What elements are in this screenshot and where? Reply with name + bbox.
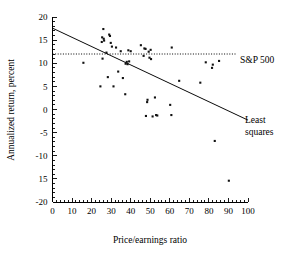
scatter-point (117, 71, 119, 73)
scatter-point (102, 58, 104, 60)
y-tick-label: 0 (43, 105, 48, 115)
scatter-point (178, 80, 180, 82)
scatter-plot-figure: 20151050-5-1015-20 010203040506070809010… (0, 0, 290, 254)
x-axis-ticks (53, 198, 249, 202)
y-tick-label: 15 (39, 174, 49, 184)
axes (53, 17, 249, 203)
least-squares-annotation-line1: Least (245, 115, 266, 125)
price-earnings-vs-return-chart: 20151050-5-1015-20 010203040506070809010… (0, 0, 290, 254)
scatter-point (124, 93, 126, 95)
scatter-point (145, 115, 147, 117)
scatter-point (115, 46, 117, 48)
scatter-point (171, 46, 173, 48)
least-squares-annotation-line2: squares (245, 127, 274, 137)
x-tick-label: 10 (68, 206, 78, 216)
scatter-point (101, 41, 103, 43)
x-tick-label: 30 (107, 206, 117, 216)
scatter-point (146, 99, 148, 101)
scatter-point (156, 114, 158, 116)
scatter-point (122, 77, 124, 79)
scatter-point (103, 38, 105, 40)
x-tick-label: 60 (165, 206, 175, 216)
y-tick-label: -10 (36, 151, 48, 161)
x-tick-label: 100 (241, 206, 255, 216)
scatter-point (82, 62, 84, 64)
scatter-point (140, 44, 142, 46)
x-axis-tick-labels: 0102030405060708090100 (50, 206, 255, 216)
scatter-point (99, 85, 101, 87)
x-tick-label: 0 (50, 206, 55, 216)
scatter-point (218, 60, 220, 62)
scatter-point (112, 85, 114, 87)
scatter-point (205, 61, 207, 63)
y-tick-label: 10 (39, 58, 49, 68)
y-axis-tick-labels: 20151050-5-1015-20 (36, 12, 49, 207)
scatter-point (130, 50, 132, 52)
x-axis-title: Price/earnings ratio (113, 235, 187, 245)
scatter-point (169, 104, 171, 106)
scatter-point (228, 180, 230, 182)
scatter-point (126, 61, 128, 63)
y-tick-label: 20 (39, 12, 49, 22)
scatter-point (211, 67, 213, 69)
scatter-point (148, 51, 150, 53)
y-tick-label: -20 (36, 197, 48, 207)
scatter-point (107, 76, 109, 78)
scatter-point (111, 46, 113, 48)
scatter-point (103, 40, 105, 42)
y-axis-ticks (53, 17, 57, 202)
scatter-point (102, 28, 104, 30)
x-tick-label: 80 (204, 206, 214, 216)
scatter-point (127, 49, 129, 51)
scatter-point (150, 49, 152, 51)
scatter-point (152, 115, 154, 117)
scatter-point (170, 114, 172, 116)
scatter-point (214, 140, 216, 142)
least-squares-line (53, 28, 249, 120)
x-tick-label: 40 (126, 206, 136, 216)
sp500-annotation-label: S&P 500 (240, 55, 274, 65)
scatter-point (110, 42, 112, 44)
data-points (82, 28, 230, 182)
scatter-point (105, 52, 107, 54)
scatter-point (120, 50, 122, 52)
y-tick-label: -5 (40, 128, 48, 138)
scatter-point (145, 48, 147, 50)
scatter-point (150, 58, 152, 60)
least-squares-fit-line (53, 28, 249, 120)
scatter-point (212, 64, 214, 66)
scatter-point (154, 96, 156, 98)
scatter-point (125, 63, 127, 65)
y-axis-title: Annualized return, percent (6, 59, 16, 161)
x-tick-label: 70 (185, 206, 195, 216)
scatter-point (143, 55, 145, 57)
scatter-point (127, 63, 129, 65)
scatter-point (109, 35, 111, 37)
scatter-point (199, 82, 201, 84)
x-tick-label: 50 (146, 206, 156, 216)
x-tick-label: 90 (224, 206, 234, 216)
scatter-point (128, 60, 130, 62)
y-tick-label: 5 (43, 82, 48, 92)
x-tick-label: 20 (87, 206, 97, 216)
scatter-point (146, 101, 148, 103)
y-tick-label: 15 (39, 35, 49, 45)
